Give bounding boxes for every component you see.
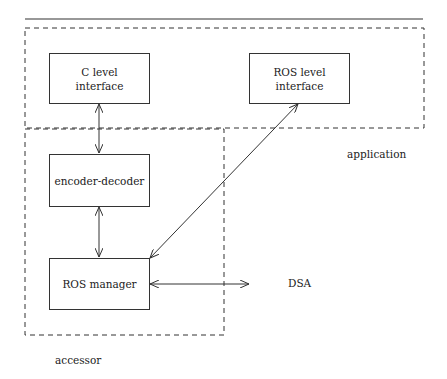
encoder-decoder-node: encoder-decoder xyxy=(49,154,150,207)
application-region-label: application xyxy=(347,148,406,160)
ros-manager-node: ROS manager xyxy=(49,258,150,310)
dsa-label: DSA xyxy=(288,277,311,289)
c-level-line2: interface xyxy=(76,79,124,93)
encoder-decoder-label: encoder-decoder xyxy=(55,174,145,188)
accessor-region-label: accessor xyxy=(55,354,101,366)
c-level-interface-node: C levelinterface xyxy=(49,53,150,104)
edge-rosmanager-roslevel xyxy=(150,104,298,258)
ros-level-interface-node: ROS levelinterface xyxy=(249,53,350,104)
c-level-line1: C level xyxy=(76,65,124,79)
ros-level-line2: interface xyxy=(273,79,325,93)
ros-level-line1: ROS level xyxy=(273,65,325,79)
ros-manager-label: ROS manager xyxy=(62,277,136,291)
